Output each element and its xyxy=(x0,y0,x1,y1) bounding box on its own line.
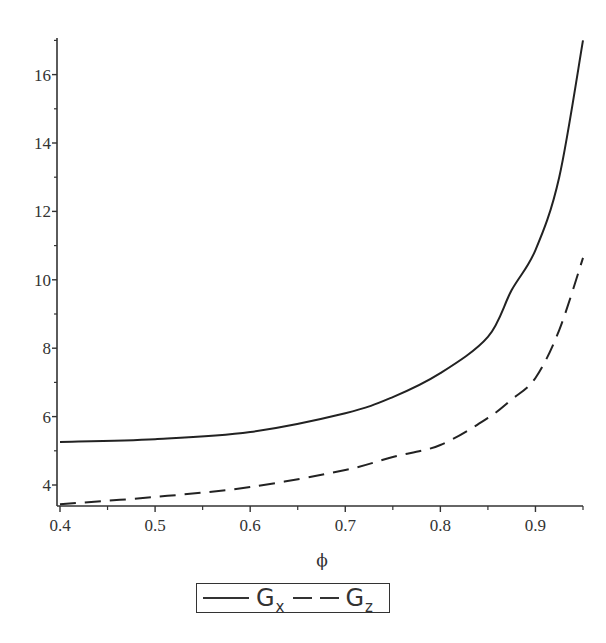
series-gz xyxy=(60,258,583,504)
solid-line-icon xyxy=(203,597,249,599)
legend-sub-gz: z xyxy=(365,598,373,616)
x-tick-label: 0.5 xyxy=(144,516,165,535)
dashed-line-icon xyxy=(293,597,339,599)
y-tick-label: 8 xyxy=(43,339,52,358)
legend: Gx Gz xyxy=(196,583,390,613)
legend-sub-gx: x xyxy=(276,598,285,616)
y-tick-label: 10 xyxy=(34,271,51,290)
x-tick-label: 0.8 xyxy=(430,516,451,535)
legend-label-gx: G xyxy=(256,586,275,610)
y-tick-label: 14 xyxy=(34,134,52,153)
x-axis-title: ϕ xyxy=(316,550,328,570)
legend-label-gz: G xyxy=(346,586,365,610)
y-tick-label: 16 xyxy=(34,66,51,85)
x-tick-label: 0.7 xyxy=(335,516,357,535)
legend-item-gx: Gx xyxy=(197,586,285,610)
y-tick-label: 4 xyxy=(43,476,52,495)
chart-plot: 468101214160.40.50.60.70.80.9ϕ xyxy=(0,0,606,643)
legend-item-gz: Gz xyxy=(285,586,373,610)
y-tick-label: 12 xyxy=(34,202,51,221)
x-tick-label: 0.6 xyxy=(240,516,261,535)
x-tick-label: 0.9 xyxy=(525,516,546,535)
series-gx xyxy=(60,40,583,442)
x-tick-label: 0.4 xyxy=(49,516,71,535)
y-tick-label: 6 xyxy=(43,408,52,427)
